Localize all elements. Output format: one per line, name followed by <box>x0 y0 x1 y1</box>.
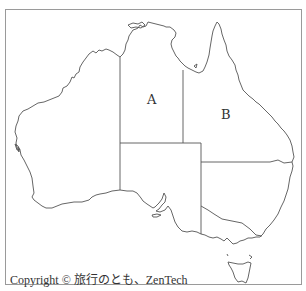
mainland-coastline <box>15 22 294 244</box>
king-island <box>227 254 228 256</box>
tasmania <box>228 262 251 283</box>
melville-island <box>128 22 145 28</box>
state-borders <box>120 57 292 236</box>
flinders-island <box>249 255 252 259</box>
copyright-text: Copyright © 旅行のとも、ZenTech <box>10 270 188 288</box>
australia-map <box>0 0 306 291</box>
border-nsw-vic <box>201 206 262 236</box>
region-label-a: A <box>147 93 156 106</box>
region-label-b: B <box>221 108 231 121</box>
groote-island <box>194 64 197 68</box>
kangaroo-island <box>152 214 161 217</box>
border-qld-nsw <box>201 160 292 163</box>
